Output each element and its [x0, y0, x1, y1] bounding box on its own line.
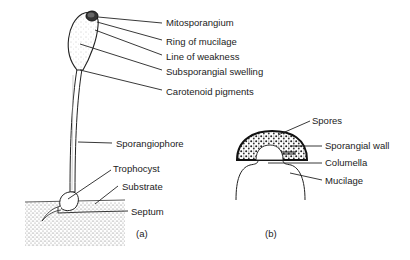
label-spores: Spores [312, 116, 342, 126]
label-ring-of-mucilage: Ring of mucilage [166, 37, 237, 47]
trophocyst-shape [60, 192, 79, 211]
label-septum: Septum [131, 207, 164, 217]
sporangiophore-stalk [70, 69, 82, 192]
label-line-of-weakness: Line of weakness [166, 52, 239, 62]
label-subsporangial-swelling: Subsporangial swelling [166, 67, 263, 77]
label-substrate: Substrate [122, 182, 163, 192]
label-sporangiophore: Sporangiophore [116, 139, 184, 149]
panel-label-a: (a) [136, 229, 148, 239]
label-sporangial-wall: Sporangial wall [325, 141, 389, 151]
label-columella: Columella [325, 158, 367, 168]
label-mitosporangium: Mitosporangium [166, 18, 234, 28]
label-carotenoid-pigments: Carotenoid pigments [166, 87, 254, 97]
panel-label-b: (b) [265, 229, 277, 239]
label-trophocyst: Trophocyst [113, 164, 160, 174]
columella-neck [236, 160, 305, 200]
label-mucilage: Mucilage [325, 176, 363, 186]
